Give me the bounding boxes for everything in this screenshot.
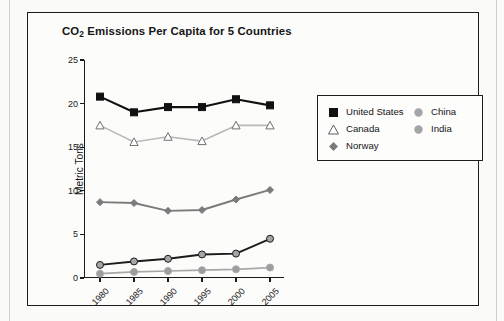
chart-title-suffix: Emissions Per Capita for 5 Countries bbox=[84, 25, 292, 37]
series-line bbox=[100, 239, 270, 265]
data-point bbox=[97, 93, 104, 100]
series-canada bbox=[96, 121, 274, 145]
data-point bbox=[199, 206, 206, 213]
data-point bbox=[267, 186, 274, 193]
chart-legend: United StatesCanadaNorway ChinaIndia bbox=[317, 95, 483, 161]
series-line bbox=[100, 125, 270, 142]
y-axis-tick-label: 10 bbox=[68, 186, 78, 196]
data-point bbox=[165, 268, 172, 275]
data-point bbox=[267, 264, 274, 271]
data-point bbox=[267, 235, 274, 242]
data-point bbox=[199, 251, 206, 258]
y-axis-tick-label: 5 bbox=[73, 229, 78, 239]
data-point bbox=[199, 267, 206, 274]
legend-entry: China bbox=[412, 103, 456, 120]
legend-entry: United States bbox=[327, 103, 404, 120]
legend-entry: Canada bbox=[327, 120, 404, 137]
x-axis-tick-label: 1985 bbox=[124, 286, 145, 307]
x-axis-tick bbox=[269, 278, 270, 282]
data-point bbox=[131, 109, 138, 116]
legend-label: India bbox=[431, 123, 452, 134]
series-china bbox=[97, 235, 274, 268]
y-axis-tick-label: 0 bbox=[73, 273, 78, 283]
data-point bbox=[233, 196, 240, 203]
circle-marker-icon bbox=[412, 122, 425, 135]
x-axis-tick bbox=[235, 278, 236, 282]
square-marker-icon bbox=[327, 105, 340, 118]
data-point bbox=[97, 270, 104, 277]
data-point bbox=[165, 255, 172, 262]
legend-label: Norway bbox=[346, 140, 379, 151]
series-india bbox=[97, 264, 274, 277]
data-point bbox=[131, 268, 138, 275]
data-point bbox=[233, 266, 240, 273]
x-axis-tick bbox=[167, 278, 168, 282]
x-axis-tick-label: 1995 bbox=[192, 286, 213, 307]
legend-label: Canada bbox=[346, 123, 380, 134]
x-axis-tick-label: 2005 bbox=[260, 286, 281, 307]
data-point bbox=[233, 96, 240, 103]
chart-title: CO2 Emissions Per Capita for 5 Countries bbox=[62, 25, 292, 37]
series-norway bbox=[97, 186, 274, 214]
x-axis-tick-label: 2000 bbox=[226, 286, 247, 307]
legend-column-right: ChinaIndia bbox=[412, 103, 456, 137]
series-united-states bbox=[97, 93, 274, 116]
legend-label: China bbox=[431, 106, 456, 117]
data-point bbox=[165, 104, 172, 111]
triangle-marker-icon bbox=[327, 122, 340, 135]
page-rule-right bbox=[496, 0, 497, 321]
chart-title-prefix: CO bbox=[62, 25, 79, 37]
data-point bbox=[97, 199, 104, 206]
chart-title-subscript: 2 bbox=[79, 29, 84, 39]
chart-figure: CO2 Emissions Per Capita for 5 Countries… bbox=[27, 12, 479, 306]
legend-entry: Norway bbox=[327, 137, 404, 154]
diamond-marker-icon bbox=[327, 139, 340, 152]
y-axis-tick-label: 25 bbox=[68, 55, 78, 65]
x-axis-tick bbox=[99, 278, 100, 282]
data-point bbox=[131, 258, 138, 265]
plot-area: Metric Tons 0510152025 19801985199019952… bbox=[84, 60, 284, 278]
series-line bbox=[100, 268, 270, 274]
page-rule-left bbox=[9, 0, 10, 321]
data-point bbox=[131, 200, 138, 207]
data-point bbox=[165, 207, 172, 214]
data-point bbox=[267, 102, 274, 109]
x-axis-tick bbox=[201, 278, 202, 282]
series-layer bbox=[84, 60, 284, 278]
data-point bbox=[233, 250, 240, 257]
legend-label: United States bbox=[346, 106, 404, 117]
data-point bbox=[96, 121, 104, 129]
series-line bbox=[100, 97, 270, 113]
x-axis-tick-label: 1990 bbox=[158, 286, 179, 307]
data-point bbox=[199, 104, 206, 111]
series-line bbox=[100, 190, 270, 211]
x-axis-tick bbox=[133, 278, 134, 282]
y-axis-tick-label: 20 bbox=[68, 99, 78, 109]
x-axis-tick-label: 1980 bbox=[90, 286, 111, 307]
circle-marker-icon bbox=[412, 105, 425, 118]
y-axis-tick-label: 15 bbox=[68, 142, 78, 152]
legend-column-left: United StatesCanadaNorway bbox=[327, 103, 404, 154]
data-point bbox=[97, 261, 104, 268]
legend-entry: India bbox=[412, 120, 456, 137]
page-background: CO2 Emissions Per Capita for 5 Countries… bbox=[0, 0, 504, 321]
